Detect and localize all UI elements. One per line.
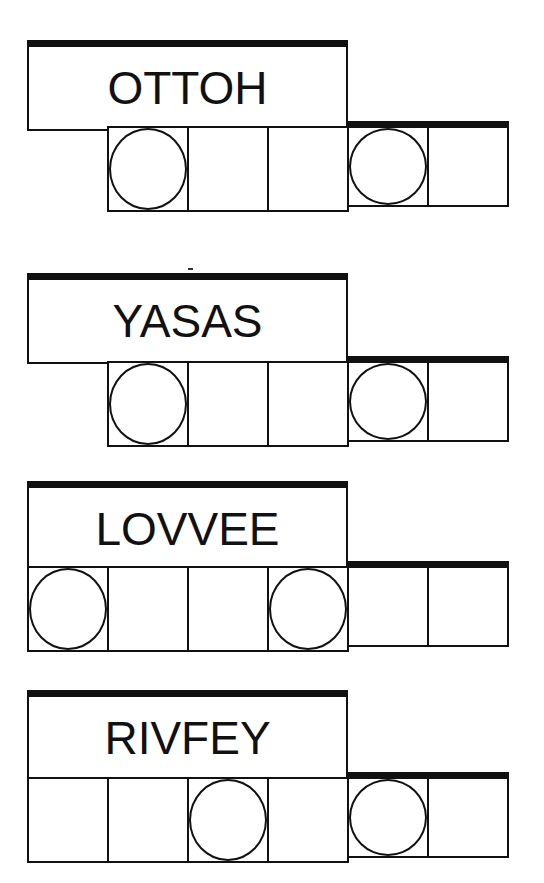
scrambled-word: OTTOH: [107, 61, 267, 115]
answer-cell[interactable]: [107, 566, 189, 652]
answer-cell[interactable]: [27, 777, 109, 863]
answer-cell[interactable]: [267, 361, 349, 447]
answer-cell-circled[interactable]: [347, 772, 429, 858]
answer-cell[interactable]: [187, 361, 269, 447]
scrambled-word-box: YASAS: [27, 273, 348, 364]
answer-cell[interactable]: [107, 777, 189, 863]
answer-cells: [27, 777, 509, 863]
scrambled-word: RIVFEY: [104, 711, 270, 765]
stray-mark: [188, 268, 193, 270]
answer-cell-circled[interactable]: [107, 361, 189, 447]
scrambled-word-box: OTTOH: [27, 40, 348, 131]
answer-cells: [107, 361, 509, 447]
scrambled-word-box: RIVFEY: [27, 690, 348, 781]
answer-cell[interactable]: [427, 772, 509, 858]
scrambled-word-box: LOVVEE: [27, 481, 348, 572]
answer-cell[interactable]: [267, 126, 349, 212]
answer-cells: [27, 566, 509, 652]
answer-cell[interactable]: [187, 126, 269, 212]
answer-cell-circled[interactable]: [27, 566, 109, 652]
answer-cell[interactable]: [427, 561, 509, 647]
answer-cells: [107, 126, 509, 212]
answer-cell[interactable]: [347, 561, 429, 647]
scrambled-word: LOVVEE: [95, 502, 279, 556]
scrambled-word: YASAS: [113, 294, 263, 348]
answer-cell-circled[interactable]: [347, 356, 429, 442]
answer-cell-circled[interactable]: [347, 121, 429, 207]
answer-cell[interactable]: [427, 356, 509, 442]
answer-cell-circled[interactable]: [267, 566, 349, 652]
answer-cell-circled[interactable]: [187, 777, 269, 863]
answer-cell[interactable]: [187, 566, 269, 652]
answer-cell-circled[interactable]: [107, 126, 189, 212]
answer-cell[interactable]: [427, 121, 509, 207]
answer-cell[interactable]: [267, 777, 349, 863]
